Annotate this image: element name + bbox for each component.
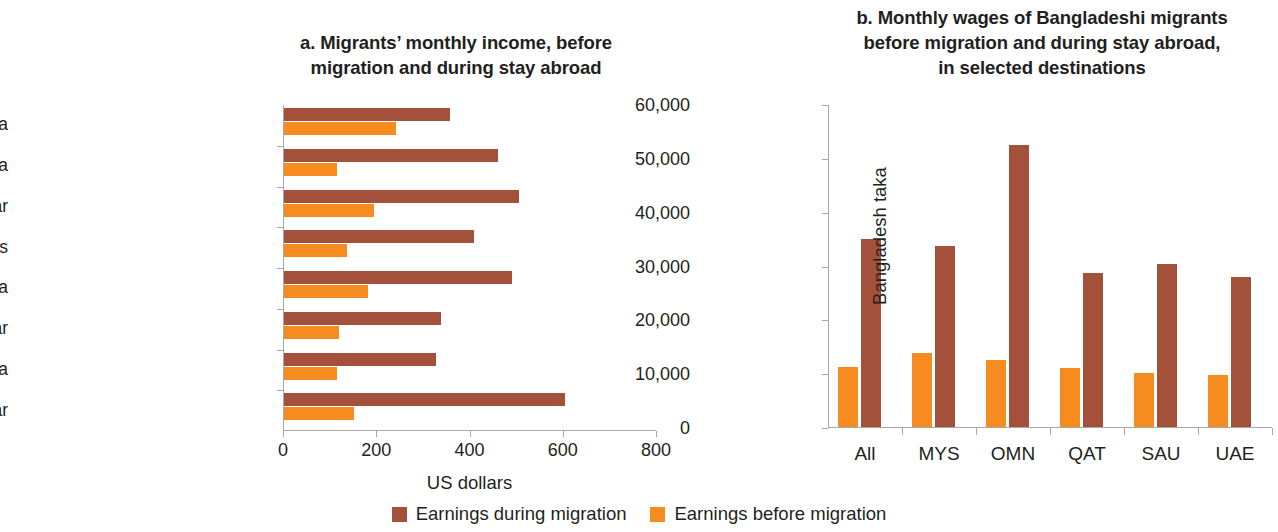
panel-b-y-tick-label: 10,000 — [635, 365, 690, 383]
panel-a-y-tick — [277, 146, 283, 147]
bar-during-migration — [284, 271, 512, 284]
panel-a-y-tick — [277, 187, 283, 188]
panel-b-category-label: QAT — [1047, 443, 1127, 465]
panel-a-x-tick-label: 200 — [352, 440, 400, 461]
legend-label: Earnings before migration — [674, 503, 886, 525]
panel-a-x-tick-label: 600 — [539, 440, 587, 461]
panel-a-title: a. Migrants’ monthly income, before migr… — [236, 30, 676, 80]
panel-a-x-tick — [563, 431, 564, 437]
bar-before-migration — [284, 163, 337, 176]
bar-during-migration — [1083, 273, 1103, 427]
panel-b-y-tick-label: 30,000 — [635, 258, 690, 276]
bar-before-migration — [1208, 375, 1228, 427]
panel-b-bar-group — [976, 105, 1050, 427]
bar-during-migration — [935, 246, 955, 427]
panel-b-x-tick — [1272, 428, 1273, 435]
panel-b-y-tick — [822, 374, 828, 375]
bar-during-migration — [284, 230, 474, 243]
legend-swatch-icon — [392, 507, 407, 522]
panel-b-title-line3: in selected destinations — [812, 55, 1272, 80]
bar-before-migration — [838, 367, 858, 427]
bar-before-migration — [986, 360, 1006, 427]
panel-b-x-tick — [976, 428, 977, 435]
panel-a-category-label: Nepal–Qatar — [0, 318, 8, 338]
panel-b-bar-group — [1050, 105, 1124, 427]
panel-b-y-tick-label: 40,000 — [635, 204, 690, 222]
panel-b-y-tick-label: 0 — [680, 419, 690, 437]
bar-during-migration — [284, 190, 519, 203]
panel-a-category-label: Vietnam–Malaysia — [0, 114, 8, 134]
panel-b-y-tick — [822, 320, 828, 321]
bar-before-migration — [1134, 373, 1154, 427]
bar-during-migration — [284, 393, 565, 406]
bar-before-migration — [912, 353, 932, 427]
panel-a-x-tick-label: 0 — [259, 440, 307, 461]
panel-a-x-tick-label: 800 — [632, 440, 680, 461]
panel-a-category-label: Pakistan–Saudi Arabia — [0, 277, 8, 297]
panel-b-bar-group — [902, 105, 976, 427]
panel-a-y-tick — [277, 309, 283, 310]
panel-a-x-tick — [470, 431, 471, 437]
chart-panel-a: a. Migrants’ monthly income, before migr… — [0, 0, 700, 532]
panel-b-title-line1: b. Monthly wages of Bangladeshi migrants — [812, 5, 1272, 30]
bar-before-migration — [284, 244, 347, 257]
bar-during-migration — [284, 353, 436, 366]
panel-b-category-label: All — [825, 443, 905, 465]
bar-before-migration — [1060, 368, 1080, 427]
bar-during-migration — [284, 312, 441, 325]
panel-b-y-axis-title: Bangladesh taka — [869, 106, 891, 366]
panel-b-y-tick — [822, 267, 828, 268]
panel-b-title-line2: before migration and during stay abroad, — [812, 30, 1272, 55]
panel-b-y-tick — [822, 213, 828, 214]
bar-before-migration — [284, 122, 396, 135]
panel-a-title-line1: a. Migrants’ monthly income, before — [236, 30, 676, 55]
panel-a-x-tick-label: 400 — [446, 440, 494, 461]
panel-b-x-tick — [1050, 428, 1051, 435]
bar-before-migration — [284, 326, 339, 339]
panel-a-title-line2: migration and during stay abroad — [236, 55, 676, 80]
bar-during-migration — [1157, 264, 1177, 427]
panel-b-title: b. Monthly wages of Bangladeshi migrants… — [812, 5, 1272, 80]
panel-b-bar-group — [1124, 105, 1198, 427]
bar-during-migration — [284, 108, 450, 121]
panel-b-category-label: MYS — [899, 443, 979, 465]
panel-a-y-tick — [277, 390, 283, 391]
legend-label: Earnings during migration — [416, 503, 627, 525]
panel-a-x-tick — [656, 431, 657, 437]
chart-panel-b: b. Monthly wages of Bangladeshi migrants… — [700, 0, 1278, 532]
panel-b-category-label: UAE — [1195, 443, 1275, 465]
bar-during-migration — [1231, 277, 1251, 427]
bar-before-migration — [284, 204, 374, 217]
panel-b-x-tick — [1124, 428, 1125, 435]
panel-a-x-axis-title: US dollars — [283, 472, 656, 494]
panel-a-y-tick — [277, 350, 283, 351]
panel-a-plot-area — [283, 105, 656, 431]
legend-item-before[interactable]: Earnings before migration — [650, 503, 886, 525]
panel-a-category-label: India–Saudi Arabia — [0, 359, 8, 379]
panel-b-y-tick-label: 20,000 — [635, 311, 690, 329]
panel-b-category-label: OMN — [973, 443, 1053, 465]
panel-a-x-tick — [376, 431, 377, 437]
panel-a-category-label: Pakistan–United Arab Emirates — [0, 237, 8, 257]
figure-container: a. Migrants’ monthly income, before migr… — [0, 0, 1278, 532]
chart-legend: Earnings during migrationEarnings before… — [0, 503, 1278, 525]
panel-b-x-tick — [902, 428, 903, 435]
bar-during-migration — [1009, 145, 1029, 427]
panel-a-y-tick — [277, 227, 283, 228]
panel-b-category-label: SAU — [1121, 443, 1201, 465]
panel-a-y-tick — [277, 268, 283, 269]
panel-b-y-tick — [822, 159, 828, 160]
bar-before-migration — [284, 367, 337, 380]
panel-b-plot-area: 010,00020,00030,00040,00050,00060,000 Al… — [828, 105, 1272, 428]
panel-b-y-tick — [822, 428, 828, 429]
panel-a-x-tick — [283, 431, 284, 437]
bar-before-migration — [284, 407, 354, 420]
bar-during-migration — [284, 149, 498, 162]
panel-b-y-tick-label: 60,000 — [635, 96, 690, 114]
panel-a-category-label: Philippines–Saudi Arabia — [0, 155, 8, 175]
panel-a-category-label: Philippines–Qatar — [0, 196, 8, 216]
legend-item-during[interactable]: Earnings during migration — [392, 503, 627, 525]
panel-b-x-tick — [1198, 428, 1199, 435]
panel-b-bar-group — [1198, 105, 1272, 427]
legend-swatch-icon — [650, 507, 665, 522]
